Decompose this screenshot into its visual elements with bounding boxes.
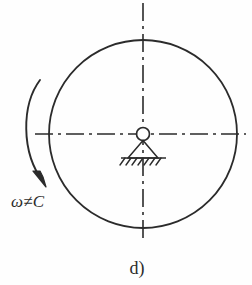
rotation-arrow-head-icon: [33, 171, 46, 187]
ground-hatching: [120, 158, 161, 165]
rotation-arrow-arc: [26, 80, 44, 183]
angular-velocity-label: ω≠C: [11, 192, 44, 212]
figure-drawing-canvas: [0, 0, 252, 285]
figure-caption-row: d): [0, 258, 252, 279]
figure-caption-text: d): [130, 258, 145, 279]
mechanics-figure: ω≠C d): [0, 0, 252, 285]
